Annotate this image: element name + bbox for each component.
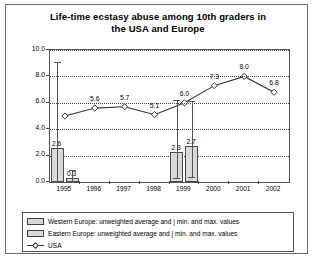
y-axis-tick: [46, 75, 49, 76]
x-axis-tick: [198, 181, 199, 184]
legend-label-eastern-europe: Eastern Europe: unweighted average and |…: [48, 230, 237, 238]
error-bar-cap-max: [54, 62, 61, 63]
y-axis-tick-label: 0.0: [21, 178, 45, 185]
y-axis-tick: [46, 102, 49, 103]
error-bar-cap-min: [188, 177, 195, 178]
error-bar-cap-max: [188, 101, 195, 102]
gridline-top: [50, 50, 289, 51]
error-bar: [72, 170, 73, 181]
y-axis-tick-label: 6.0: [21, 98, 45, 105]
usa-data-point-marker: [92, 105, 98, 111]
usa-data-point-marker: [122, 104, 128, 110]
usa-value-label: 8.0: [233, 63, 255, 70]
x-axis-tick: [169, 181, 170, 184]
chart-area: 2.62.30.32.75.65.75.16.07.38.06.8 0.02.0…: [22, 41, 294, 207]
usa-value-label: 6.0: [173, 90, 195, 97]
y-axis-tick-label: 4.0: [21, 125, 45, 132]
x-axis-tick: [258, 181, 259, 184]
chart-title-line-1: Life-time ecstasy abuse among 10th grade…: [50, 11, 266, 22]
y-axis-tick: [46, 181, 49, 182]
legend-swatch-eastern-europe: [27, 230, 44, 237]
legend-item-usa: USA: [27, 240, 289, 251]
y-axis-tick-label: 8.0: [21, 72, 45, 79]
gridline: [50, 103, 289, 104]
y-axis-tick: [46, 128, 49, 129]
usa-value-label: 5.7: [114, 94, 136, 101]
error-bar-cap-max: [69, 170, 76, 171]
legend-marker-usa: [27, 242, 44, 249]
x-axis-tick: [139, 181, 140, 184]
legend-label-usa: USA: [48, 242, 62, 250]
error-bar-cap-min: [54, 181, 61, 182]
y-axis-tick-label: 10.0: [21, 46, 45, 53]
chart-frame: Life-time ecstasy abuse among 10th grade…: [5, 4, 308, 254]
usa-value-label: 7.3: [203, 73, 225, 80]
x-axis-tick: [79, 181, 80, 184]
x-axis-tick: [109, 181, 110, 184]
chart-title: Life-time ecstasy abuse among 10th grade…: [24, 11, 292, 35]
error-bar-cap-min: [69, 181, 76, 182]
y-axis-tick: [46, 155, 49, 156]
error-bar-cap-max: [173, 100, 180, 101]
error-bar: [192, 101, 193, 176]
usa-value-label: 5.1: [144, 102, 166, 109]
y-axis-tick-label: 2.0: [21, 151, 45, 158]
y-axis-tick: [46, 49, 49, 50]
chart-title-line-2: the USA and Europe: [111, 23, 204, 34]
usa-data-point-marker: [62, 113, 68, 119]
plot-area: 2.62.30.32.75.65.75.16.07.38.06.8: [49, 49, 290, 183]
chart-legend: Western Europe: unweighted average and |…: [22, 212, 294, 252]
x-axis-tick: [228, 181, 229, 184]
usa-data-point-marker: [211, 83, 217, 89]
x-axis-tick-label: 2002: [253, 185, 293, 192]
error-bar-cap-min: [173, 178, 180, 179]
error-bar: [57, 62, 58, 181]
gridline: [50, 76, 289, 77]
legend-item-western-europe: Western Europe: unweighted average and |…: [27, 216, 289, 227]
error-bar: [177, 100, 178, 178]
legend-swatch-western-europe: [27, 218, 44, 225]
legend-label-western-europe: Western Europe: unweighted average and |…: [48, 218, 239, 226]
usa-data-point-marker: [151, 112, 157, 118]
usa-value-label: 6.8: [263, 79, 285, 86]
usa-value-label: 5.6: [84, 95, 106, 102]
usa-data-point-marker: [271, 89, 277, 95]
legend-item-eastern-europe: Eastern Europe: unweighted average and |…: [27, 228, 289, 239]
gridline: [50, 129, 289, 130]
